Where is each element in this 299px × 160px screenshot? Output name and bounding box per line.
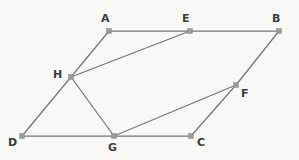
edge-b-f bbox=[236, 31, 279, 85]
edge-f-c bbox=[191, 85, 236, 136]
vertex-point-a bbox=[107, 29, 112, 34]
edges-group bbox=[22, 31, 279, 136]
vertex-point-c bbox=[189, 134, 194, 139]
edge-h-g bbox=[71, 77, 114, 136]
edge-h-d bbox=[22, 77, 71, 136]
vertex-point-h bbox=[69, 75, 74, 80]
geometry-figure-canvas: AEBHFDGC bbox=[0, 0, 299, 160]
vertex-label-h: H bbox=[53, 69, 62, 80]
vertex-label-c: C bbox=[197, 137, 205, 148]
vertex-label-e: E bbox=[182, 13, 190, 24]
vertex-point-f bbox=[234, 83, 239, 88]
vertex-label-d: D bbox=[8, 137, 17, 148]
vertex-label-a: A bbox=[101, 13, 110, 24]
vertex-point-g bbox=[112, 134, 117, 139]
figure-svg bbox=[0, 0, 299, 160]
vertex-label-g: G bbox=[108, 142, 117, 153]
vertex-point-d bbox=[20, 134, 25, 139]
edge-h-e bbox=[71, 31, 190, 77]
vertex-point-e bbox=[188, 29, 193, 34]
vertices-group bbox=[20, 29, 282, 139]
vertex-label-f: F bbox=[241, 88, 249, 99]
vertex-point-b bbox=[277, 29, 282, 34]
vertex-label-b: B bbox=[272, 13, 281, 24]
edge-g-f bbox=[114, 85, 236, 136]
